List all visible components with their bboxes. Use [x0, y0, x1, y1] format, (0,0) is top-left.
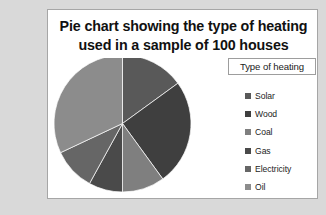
legend-item-label: Wood: [255, 109, 277, 119]
chart-legend: Type of heating SolarWoodCoalGasElectric…: [224, 58, 316, 198]
legend-item-list: SolarWoodCoalGasElectricityOil: [245, 88, 317, 198]
plot-area: Type of heating SolarWoodCoalGasElectric…: [48, 58, 318, 199]
legend-item[interactable]: Electricity: [245, 162, 317, 177]
legend-item-label: Electricity: [255, 164, 291, 174]
legend-title-box: Type of heating: [228, 58, 316, 75]
legend-item-label: Gas: [255, 146, 271, 156]
legend-swatch-icon: [245, 129, 251, 135]
legend-swatch-icon: [245, 148, 251, 154]
legend-item[interactable]: Oil: [245, 180, 317, 195]
pie-chart[interactable]: [51, 58, 213, 199]
legend-item-label: Coal: [255, 127, 272, 137]
legend-item[interactable]: Coal: [245, 125, 317, 140]
chart-title: Pie chart showing the type of heating us…: [48, 17, 318, 55]
chart-title-line-1: Pie chart showing the type of heating: [48, 17, 318, 36]
legend-item-label: Oil: [255, 182, 265, 192]
legend-swatch-icon: [245, 93, 251, 99]
legend-swatch-icon: [245, 184, 251, 190]
legend-title-label: Type of heating: [240, 61, 304, 72]
legend-item[interactable]: Wood: [245, 106, 317, 121]
legend-item[interactable]: Solar: [245, 88, 317, 103]
chart-panel[interactable]: Pie chart showing the type of heating us…: [47, 9, 318, 199]
legend-item-label: Solar: [255, 91, 275, 101]
chart-outer-frame: Pie chart showing the type of heating us…: [0, 0, 326, 215]
chart-title-line-2: used in a sample of 100 houses: [48, 36, 318, 55]
legend-swatch-icon: [245, 111, 251, 117]
legend-swatch-icon: [245, 166, 251, 172]
legend-item[interactable]: Gas: [245, 143, 317, 158]
